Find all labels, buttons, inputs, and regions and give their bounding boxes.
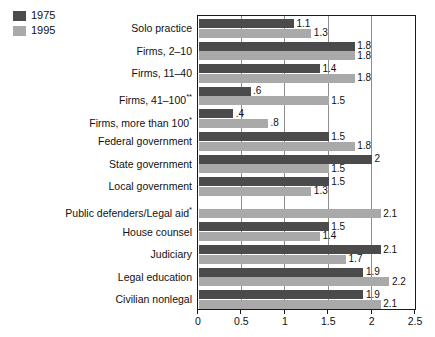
bar-value-label: 1.3: [314, 186, 328, 196]
bar-1995: [199, 51, 355, 60]
bar-1975: [199, 222, 329, 231]
bar-value-label: 1.1: [296, 19, 310, 29]
x-axis-tick-label: 0.5: [234, 316, 249, 327]
bar-1975: [199, 64, 321, 73]
bar-1995: [199, 164, 329, 173]
bar-value-label: 2.1: [383, 209, 397, 219]
bar-1995: [199, 96, 329, 105]
bar-value-label: 2: [375, 154, 381, 164]
category-label: Firms, 41–100**: [119, 91, 192, 106]
chart-row: Judiciary2.11.7: [0, 245, 435, 268]
x-axis-tick: [240, 310, 241, 314]
bar-1995: [199, 300, 381, 309]
bar-1995: [199, 187, 312, 196]
chart-row: House counsel1.51.4: [0, 222, 435, 245]
bar-value-label: .6: [253, 86, 261, 96]
category-label: Federal government: [98, 136, 192, 147]
bar-value-label: 1.5: [331, 132, 345, 142]
x-axis-tick-label: 0: [195, 316, 201, 327]
category-label: Local government: [109, 181, 192, 192]
bar-1975: [199, 132, 329, 141]
bar-1975: [199, 155, 373, 164]
bar-1995: [199, 119, 268, 128]
chart-row: Solo practice1.11.3: [0, 19, 435, 42]
bar-1975: [199, 268, 364, 277]
bar-value-label: .8: [270, 118, 278, 128]
category-label: Firms, 2–10: [137, 46, 192, 57]
x-axis-tick-label: 2.5: [408, 316, 423, 327]
chart-row: Firms, 11–401.41.8: [0, 64, 435, 87]
bar-1995: [199, 232, 321, 241]
bar-1995: [199, 29, 312, 38]
category-label: Judiciary: [151, 249, 192, 260]
chart-row: Legal education1.92.2: [0, 268, 435, 291]
bar-value-label: 1.5: [331, 96, 345, 106]
bar-value-label: 1.8: [357, 51, 371, 61]
bar-value-label: 1.4: [323, 64, 337, 74]
bar-1975: [199, 87, 251, 96]
bar-value-label: 2.1: [383, 245, 397, 255]
bar-value-label: 1.8: [357, 141, 371, 151]
x-axis-tick-label: 1.5: [321, 316, 336, 327]
category-label: Legal education: [118, 272, 192, 283]
bar-value-label: 1.8: [357, 73, 371, 83]
chart-rows: Solo practice1.11.3Firms, 2–101.81.8Firm…: [0, 15, 435, 310]
category-label: Solo practice: [131, 23, 192, 34]
category-label: Firms, 11–40: [132, 68, 193, 79]
chart-row: Federal government1.51.8: [0, 132, 435, 155]
category-label: House counsel: [123, 227, 192, 238]
x-axis: 00.511.522.5: [197, 310, 416, 332]
bar-value-label: 1.7: [349, 254, 363, 264]
chart-container: 1975 1995 Solo practice1.11.3Firms, 2–10…: [0, 0, 435, 337]
chart-row: Firms, 2–101.81.8: [0, 42, 435, 65]
bar-value-label: 1.4: [323, 231, 337, 241]
bar-1995: [199, 74, 355, 83]
bar-value-label: 1.3: [314, 28, 328, 38]
chart-row: Firms, 41–100**.61.5: [0, 87, 435, 110]
bar-value-label: .4: [236, 109, 244, 119]
bar-value-label: 1.9: [366, 267, 380, 277]
x-axis-tick: [371, 310, 372, 314]
bar-1975: [199, 177, 329, 186]
category-label: State government: [109, 159, 192, 170]
chart-row: State government21.5: [0, 155, 435, 178]
chart-row: Public defenders/Legal aid*2.1: [0, 200, 435, 223]
bar-1975: [199, 109, 234, 118]
bar-value-label: 1.5: [331, 164, 345, 174]
bar-value-label: 1.9: [366, 290, 380, 300]
bar-value-label: 2.1: [383, 299, 397, 309]
chart-row: Local government1.51.3: [0, 177, 435, 200]
x-axis-tick: [284, 310, 285, 314]
bar-1995: [199, 255, 347, 264]
bar-1995: [199, 142, 355, 151]
bar-1975: [199, 42, 355, 51]
x-axis-tick-label: 2: [369, 316, 375, 327]
x-axis-tick: [414, 310, 415, 314]
x-axis-tick-label: 1: [282, 316, 288, 327]
bar-1995: [199, 277, 390, 286]
category-label: Firms, more than 100*: [89, 114, 192, 129]
bar-1975: [199, 290, 364, 299]
category-label: Public defenders/Legal aid*: [65, 204, 192, 219]
bar-value-label: 2.2: [392, 277, 406, 287]
x-axis-tick: [197, 310, 198, 314]
category-label: Civilian nonlegal: [116, 294, 192, 305]
bar-value-label: 1.5: [331, 177, 345, 187]
bar-1995: [199, 209, 381, 218]
x-axis-tick: [327, 310, 328, 314]
bar-1975: [199, 19, 294, 28]
chart-row: Firms, more than 100*.4.8: [0, 109, 435, 132]
